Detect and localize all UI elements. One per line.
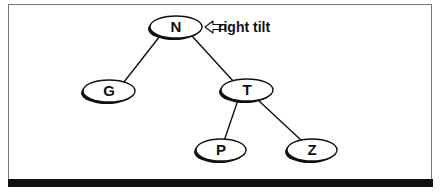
node-z: Z — [285, 139, 337, 163]
node-g: G — [81, 80, 135, 104]
edge-n-t — [192, 36, 234, 82]
node-n-label: N — [171, 18, 182, 35]
edge-t-z — [258, 100, 302, 141]
node-t-label: T — [242, 81, 251, 98]
node-p-label: P — [216, 141, 226, 158]
node-p: P — [194, 139, 246, 163]
node-z-label: Z — [307, 141, 316, 158]
node-n: N — [148, 16, 202, 40]
tilt-annotation: right tilt — [218, 19, 270, 35]
node-t: T — [219, 79, 273, 103]
edge-t-p — [224, 100, 238, 141]
tree-edges — [124, 36, 302, 141]
node-g-label: G — [103, 82, 115, 99]
edge-n-g — [124, 36, 160, 82]
